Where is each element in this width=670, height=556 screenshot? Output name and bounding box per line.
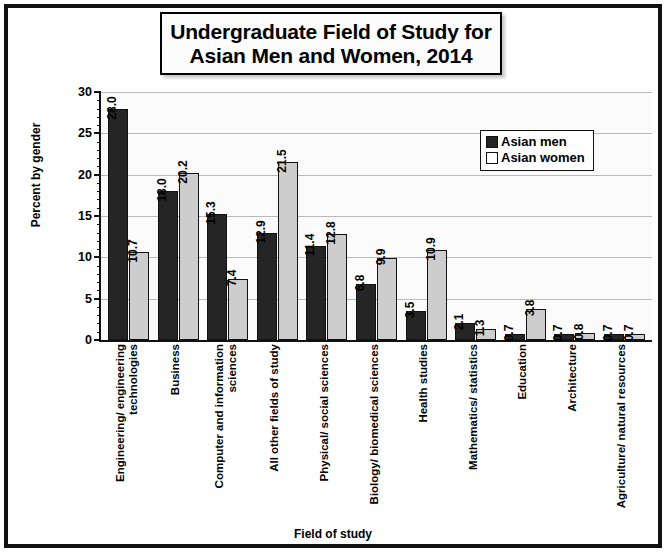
bar-value-label: 10.7 bbox=[127, 239, 139, 262]
bar-value-label: 9.9 bbox=[375, 249, 387, 266]
y-axis-tick-label: 0 bbox=[85, 333, 92, 347]
bar-asian-men[interactable]: 3.5 bbox=[406, 311, 426, 340]
bar-value-label: 0.7 bbox=[552, 325, 564, 342]
bar-asian-women[interactable]: 0.7 bbox=[625, 334, 645, 340]
bar-value-label: 10.9 bbox=[425, 237, 437, 260]
x-axis-category: Education bbox=[498, 344, 548, 524]
bar-group: 18.020.2 bbox=[154, 92, 204, 340]
x-axis-category-label: Biology/ biomedical sciences bbox=[368, 344, 381, 520]
x-axis-category-label: All other fields of study bbox=[269, 344, 282, 520]
bar-value-label: 28.0 bbox=[106, 96, 118, 119]
legend-label-asian-women: Asian women bbox=[501, 150, 585, 166]
bar-group: 15.37.4 bbox=[203, 92, 253, 340]
y-axis-tick bbox=[94, 215, 101, 217]
x-axis-category: Architecture bbox=[548, 344, 598, 524]
bar-asian-men[interactable]: 0.7 bbox=[604, 334, 624, 340]
legend-label-asian-men: Asian men bbox=[501, 134, 567, 150]
x-axis-category: All other fields of study bbox=[251, 344, 301, 524]
y-axis-tick bbox=[94, 91, 101, 93]
chart-title: Undergraduate Field of Study for Asian M… bbox=[160, 12, 502, 75]
bar-value-label: 15.3 bbox=[205, 201, 217, 224]
bar-value-label: 12.8 bbox=[325, 222, 337, 245]
bar-value-label: 18.0 bbox=[156, 179, 168, 202]
bar-asian-men[interactable]: 0.7 bbox=[505, 334, 525, 340]
y-axis-tick-label: 20 bbox=[78, 168, 92, 182]
bar-asian-women[interactable]: 10.7 bbox=[129, 252, 149, 340]
bar-asian-men[interactable]: 11.4 bbox=[306, 246, 326, 340]
x-axis-category-label: Engineering/ engineering technologies bbox=[114, 344, 140, 520]
x-axis-category-labels: Engineering/ engineering technologiesBus… bbox=[99, 344, 650, 524]
bar-value-label: 11.4 bbox=[304, 233, 316, 256]
bar-value-label: 3.5 bbox=[404, 302, 416, 319]
y-axis-tick-label: 30 bbox=[78, 85, 92, 99]
y-axis-tick-label: 25 bbox=[78, 126, 92, 140]
bar-asian-women[interactable]: 3.8 bbox=[526, 309, 546, 340]
bar-asian-men[interactable]: 18.0 bbox=[158, 191, 178, 340]
bar-asian-women[interactable]: 1.3 bbox=[476, 329, 496, 340]
bar-value-label: 3.8 bbox=[524, 299, 536, 316]
bar-asian-women[interactable]: 9.9 bbox=[377, 258, 397, 340]
x-axis-category: Business bbox=[152, 344, 202, 524]
bar-group: 6.89.9 bbox=[352, 92, 402, 340]
bar-value-label: 0.7 bbox=[623, 325, 635, 342]
y-axis-tick-label: 5 bbox=[85, 292, 92, 306]
bar-value-label: 0.7 bbox=[503, 325, 515, 342]
bar-group: 12.921.5 bbox=[253, 92, 303, 340]
bar-value-label: 2.1 bbox=[453, 313, 465, 330]
bar-value-label: 7.4 bbox=[226, 269, 238, 286]
x-axis-category: Mathematics/ statistics bbox=[449, 344, 499, 524]
legend-swatch-icon-asian-women bbox=[486, 152, 498, 164]
x-axis-category: Physical/ social sciences bbox=[300, 344, 350, 524]
y-axis-tick bbox=[94, 298, 101, 300]
bar-group: 0.70.7 bbox=[599, 92, 649, 340]
legend: Asian men Asian women bbox=[480, 130, 594, 171]
x-axis-category: Engineering/ engineering technologies bbox=[102, 344, 152, 524]
y-axis-tick bbox=[94, 339, 101, 341]
y-axis-tick bbox=[94, 174, 101, 176]
x-axis-category-label: Business bbox=[170, 344, 183, 520]
bar-asian-women[interactable]: 7.4 bbox=[228, 279, 248, 340]
bar-asian-women[interactable]: 12.8 bbox=[327, 234, 347, 340]
bar-group: 28.010.7 bbox=[104, 92, 154, 340]
y-axis-tick-label: 15 bbox=[78, 209, 92, 223]
legend-item-asian-men: Asian men bbox=[486, 134, 585, 150]
bar-value-label: 12.9 bbox=[255, 221, 267, 244]
bar-asian-men[interactable]: 28.0 bbox=[108, 109, 128, 340]
x-axis-category: Biology/ biomedical sciences bbox=[350, 344, 400, 524]
bar-value-label: 0.7 bbox=[602, 325, 614, 342]
bar-asian-women[interactable]: 20.2 bbox=[179, 173, 199, 340]
bar-value-label: 1.3 bbox=[474, 320, 486, 337]
y-axis-title: Percent by gender bbox=[29, 100, 43, 250]
legend-item-asian-women: Asian women bbox=[486, 150, 585, 166]
y-axis-tick-label: 10 bbox=[78, 250, 92, 264]
bar-asian-women[interactable]: 21.5 bbox=[278, 162, 298, 340]
bar-asian-women[interactable]: 0.8 bbox=[575, 333, 595, 340]
bar-value-label: 6.8 bbox=[354, 274, 366, 291]
x-axis-category: Health studies bbox=[399, 344, 449, 524]
x-axis-title: Field of study bbox=[8, 527, 658, 541]
x-axis-category-label: Education bbox=[517, 344, 530, 520]
bar-asian-women[interactable]: 10.9 bbox=[427, 250, 447, 340]
x-axis-category: Computer and information sciences bbox=[201, 344, 251, 524]
x-axis-category: Agriculture/ natural resources bbox=[597, 344, 647, 524]
bar-value-label: 21.5 bbox=[276, 150, 288, 173]
x-axis-category-label: Health studies bbox=[417, 344, 430, 520]
bar-group: 11.412.8 bbox=[302, 92, 352, 340]
bar-asian-men[interactable]: 6.8 bbox=[356, 284, 376, 340]
y-axis-tick bbox=[94, 256, 101, 258]
bar-value-label: 0.8 bbox=[573, 324, 585, 341]
bar-value-label: 20.2 bbox=[177, 160, 189, 183]
x-axis-category-label: Computer and information sciences bbox=[213, 344, 239, 520]
legend-swatch-icon-asian-men bbox=[486, 136, 498, 148]
bar-asian-men[interactable]: 12.9 bbox=[257, 233, 277, 340]
chart-frame: Undergraduate Field of Study for Asian M… bbox=[4, 4, 662, 548]
chart-title-line-2: Asian Men and Women, 2014 bbox=[190, 44, 473, 68]
x-axis-category-label: Physical/ social sciences bbox=[318, 344, 331, 520]
y-axis-tick bbox=[94, 132, 101, 134]
bar-group: 3.510.9 bbox=[401, 92, 451, 340]
x-axis-category-label: Architecture bbox=[566, 344, 579, 520]
x-axis-category-label: Mathematics/ statistics bbox=[467, 344, 480, 520]
chart-title-line-1: Undergraduate Field of Study for bbox=[170, 20, 491, 44]
x-axis-category-label: Agriculture/ natural resources bbox=[616, 344, 629, 520]
